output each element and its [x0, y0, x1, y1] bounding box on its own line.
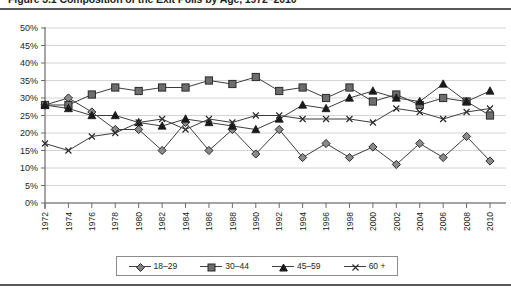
- square-marker-icon: [182, 84, 189, 91]
- x-marker-icon: [344, 261, 366, 272]
- x-tick-label: 2004: [415, 212, 425, 231]
- square-marker-icon: [200, 261, 222, 272]
- x-tick-label: 1986: [204, 212, 214, 231]
- y-tick-label: 35%: [20, 76, 38, 86]
- line-chart: 0%5%10%15%20%25%30%35%40%45%50%197219741…: [0, 0, 511, 291]
- y-tick-label: 40%: [20, 58, 38, 68]
- diamond-marker-icon: [345, 153, 353, 161]
- x-tick-label: 1990: [251, 212, 261, 231]
- y-tick-label: 5%: [25, 181, 38, 191]
- square-marker-icon: [299, 84, 306, 91]
- x-tick-label: 1988: [228, 212, 238, 231]
- x-tick-label: 1992: [274, 212, 284, 231]
- x-tick-label: 2000: [368, 212, 378, 231]
- square-marker-icon: [346, 84, 353, 91]
- diamond-marker-icon: [64, 94, 72, 102]
- figure-container: Figure 3.1 Composition of the Exit Polls…: [0, 0, 511, 291]
- x-tick-label: 1976: [87, 212, 97, 231]
- square-marker-icon: [440, 94, 447, 101]
- y-tick-label: 25%: [20, 111, 38, 121]
- triangle-marker-icon: [369, 87, 377, 94]
- x-marker-icon: [440, 116, 446, 122]
- x-tick-label: 2002: [392, 212, 402, 231]
- square-marker-icon: [276, 87, 283, 94]
- y-tick-label: 20%: [20, 128, 38, 138]
- x-tick-label: 2010: [485, 212, 495, 231]
- x-marker-icon: [183, 127, 189, 133]
- series-line: [45, 77, 490, 116]
- square-marker-icon: [322, 94, 329, 101]
- legend-item-18-29[interactable]: 18–29: [129, 261, 178, 272]
- x-tick-label: 1996: [321, 212, 331, 231]
- diamond-marker-icon: [369, 143, 377, 151]
- square-marker-icon: [252, 73, 259, 80]
- triangle-marker-icon: [299, 101, 307, 108]
- x-tick-label: 1984: [181, 212, 191, 231]
- square-marker-icon: [229, 80, 236, 87]
- x-tick-label: 2006: [438, 212, 448, 231]
- y-tick-label: 10%: [20, 163, 38, 173]
- y-tick-label: 15%: [20, 146, 38, 156]
- x-tick-label: 2008: [462, 212, 472, 231]
- square-marker-icon: [112, 84, 119, 91]
- square-marker-icon: [159, 84, 166, 91]
- chart-legend: 18–29 30–44 45–59 60 +: [116, 256, 398, 276]
- x-tick-label: 1980: [134, 212, 144, 231]
- y-tick-label: 0%: [25, 198, 38, 208]
- triangle-marker-icon: [272, 261, 294, 272]
- x-tick-label: 1982: [157, 212, 167, 231]
- diamond-marker-icon: [129, 261, 151, 272]
- triangle-marker-icon: [486, 87, 494, 94]
- plot-area: 0%5%10%15%20%25%30%35%40%45%50%197219741…: [0, 0, 511, 291]
- x-tick-label: 1994: [298, 212, 308, 231]
- x-tick-label: 1998: [345, 212, 355, 231]
- square-marker-icon: [205, 77, 212, 84]
- y-tick-label: 50%: [20, 23, 38, 33]
- x-tick-label: 1978: [110, 212, 120, 231]
- square-marker-icon: [88, 91, 95, 98]
- legend-item-30-44[interactable]: 30–44: [200, 261, 249, 272]
- x-axis-ticks: 1972197419761978198019821984198619881990…: [40, 203, 495, 231]
- x-tick-label: 1974: [64, 212, 74, 231]
- square-marker-icon: [135, 87, 142, 94]
- series-18-29: [41, 94, 494, 169]
- legend-label-60-plus: 60 +: [369, 261, 386, 271]
- y-tick-label: 45%: [20, 41, 38, 51]
- square-marker-icon: [486, 112, 493, 119]
- legend-label-30-44: 30–44: [225, 261, 249, 271]
- legend-label-45-59: 45–59: [297, 261, 321, 271]
- legend-label-18-29: 18–29: [154, 261, 178, 271]
- legend-item-45-59[interactable]: 45–59: [272, 261, 321, 272]
- legend-item-60-plus[interactable]: 60 +: [344, 261, 386, 272]
- square-marker-icon: [369, 98, 376, 105]
- y-tick-label: 30%: [20, 93, 38, 103]
- x-tick-label: 1972: [40, 212, 50, 231]
- diamond-marker-icon: [322, 139, 330, 147]
